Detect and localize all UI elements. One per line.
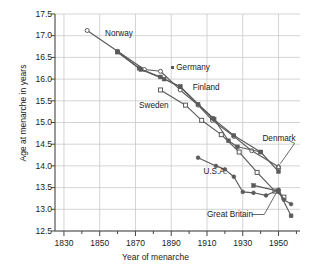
series-label-germany: Germany [171, 63, 210, 72]
annotation-marker-icon [171, 66, 174, 69]
menarche-age-chart: 12.513.013.514.014.515.015.516.016.517.0… [0, 0, 311, 274]
x-axis-title: Year of menarche [0, 252, 311, 262]
series-label-sweden: Sweden [139, 101, 169, 110]
series-label-great-britain: Great Britain [207, 210, 253, 219]
x-tick-label: 1870 [118, 238, 152, 248]
annotation-text: Germany [176, 63, 210, 72]
annotation-text: Great Britain [207, 210, 253, 219]
series-label-norway: Norway [105, 29, 133, 38]
x-tick-label: 1850 [83, 238, 117, 248]
series-label-denmark: Denmark [262, 134, 295, 143]
annotation-text: Sweden [139, 101, 169, 110]
series-label-u-s-a: U.S.A. [203, 167, 227, 176]
x-tick-label: 1830 [47, 238, 81, 248]
x-tick-label: 1890 [154, 238, 188, 248]
x-tick-label: 1950 [262, 238, 296, 248]
x-tick-label: 1910 [190, 238, 224, 248]
annotation-text: Finland [193, 83, 220, 92]
annotation-text: Norway [105, 29, 133, 38]
series-label-finland: Finland [193, 83, 220, 92]
annotation-text: Denmark [262, 134, 295, 143]
x-tick-label: 1930 [226, 238, 260, 248]
y-axis-title: Age at menarche in years [18, 28, 28, 198]
annotation-text: U.S.A. [203, 167, 227, 176]
